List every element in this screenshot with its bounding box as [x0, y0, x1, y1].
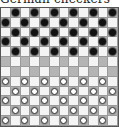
black-piece-icon[interactable]	[90, 48, 97, 55]
dark-square[interactable]	[30, 8, 40, 18]
dark-square[interactable]	[69, 67, 79, 77]
white-piece-icon[interactable]	[2, 117, 9, 124]
dark-square[interactable]	[108, 67, 118, 77]
white-piece-icon[interactable]	[41, 97, 48, 104]
dark-square[interactable]	[21, 77, 31, 87]
white-piece-icon[interactable]	[90, 107, 97, 114]
dark-square[interactable]	[99, 57, 109, 67]
black-piece-icon[interactable]	[12, 29, 19, 36]
white-piece-icon[interactable]	[99, 78, 106, 85]
dark-square[interactable]	[11, 106, 21, 116]
dark-square[interactable]	[89, 47, 99, 57]
white-piece-icon[interactable]	[109, 107, 116, 114]
black-piece-icon[interactable]	[21, 19, 28, 26]
dark-square[interactable]	[99, 96, 109, 106]
dark-square[interactable]	[60, 77, 70, 87]
dark-square[interactable]	[40, 18, 50, 28]
dark-square[interactable]	[69, 47, 79, 57]
dark-square[interactable]	[99, 77, 109, 87]
dark-square[interactable]	[50, 87, 60, 97]
dark-square[interactable]	[89, 87, 99, 97]
black-piece-icon[interactable]	[31, 29, 38, 36]
dark-square[interactable]	[60, 37, 70, 47]
dark-square[interactable]	[79, 37, 89, 47]
black-piece-icon[interactable]	[70, 48, 77, 55]
dark-square[interactable]	[21, 96, 31, 106]
black-piece-icon[interactable]	[41, 19, 48, 26]
black-piece-icon[interactable]	[12, 48, 19, 55]
dark-square[interactable]	[69, 106, 79, 116]
dark-square[interactable]	[30, 47, 40, 57]
dark-square[interactable]	[1, 37, 11, 47]
black-piece-icon[interactable]	[2, 19, 9, 26]
dark-square[interactable]	[89, 8, 99, 18]
dark-square[interactable]	[79, 57, 89, 67]
white-piece-icon[interactable]	[60, 97, 67, 104]
dark-square[interactable]	[99, 116, 109, 126]
dark-square[interactable]	[1, 18, 11, 28]
black-piece-icon[interactable]	[109, 48, 116, 55]
black-piece-icon[interactable]	[90, 9, 97, 16]
black-piece-icon[interactable]	[2, 38, 9, 45]
dark-square[interactable]	[30, 67, 40, 77]
dark-square[interactable]	[11, 87, 21, 97]
dark-square[interactable]	[11, 47, 21, 57]
dark-square[interactable]	[40, 96, 50, 106]
checkers-board[interactable]	[0, 7, 119, 127]
dark-square[interactable]	[79, 116, 89, 126]
dark-square[interactable]	[21, 18, 31, 28]
black-piece-icon[interactable]	[70, 29, 77, 36]
dark-square[interactable]	[1, 77, 11, 87]
dark-square[interactable]	[1, 116, 11, 126]
white-piece-icon[interactable]	[41, 117, 48, 124]
dark-square[interactable]	[50, 47, 60, 57]
black-piece-icon[interactable]	[31, 9, 38, 16]
dark-square[interactable]	[60, 116, 70, 126]
dark-square[interactable]	[79, 18, 89, 28]
white-piece-icon[interactable]	[70, 107, 77, 114]
white-piece-icon[interactable]	[21, 97, 28, 104]
dark-square[interactable]	[40, 57, 50, 67]
black-piece-icon[interactable]	[60, 38, 67, 45]
dark-square[interactable]	[60, 96, 70, 106]
white-piece-icon[interactable]	[12, 88, 19, 95]
dark-square[interactable]	[11, 8, 21, 18]
dark-square[interactable]	[69, 28, 79, 38]
black-piece-icon[interactable]	[21, 38, 28, 45]
black-piece-icon[interactable]	[99, 38, 106, 45]
white-piece-icon[interactable]	[51, 107, 58, 114]
dark-square[interactable]	[108, 87, 118, 97]
dark-square[interactable]	[21, 37, 31, 47]
dark-square[interactable]	[30, 87, 40, 97]
white-piece-icon[interactable]	[51, 88, 58, 95]
white-piece-icon[interactable]	[21, 78, 28, 85]
black-piece-icon[interactable]	[51, 48, 58, 55]
white-piece-icon[interactable]	[60, 78, 67, 85]
white-piece-icon[interactable]	[31, 107, 38, 114]
dark-square[interactable]	[108, 47, 118, 57]
dark-square[interactable]	[50, 28, 60, 38]
white-piece-icon[interactable]	[90, 88, 97, 95]
dark-square[interactable]	[89, 67, 99, 77]
black-piece-icon[interactable]	[12, 9, 19, 16]
black-piece-icon[interactable]	[51, 29, 58, 36]
white-piece-icon[interactable]	[99, 117, 106, 124]
white-piece-icon[interactable]	[2, 97, 9, 104]
white-piece-icon[interactable]	[80, 78, 87, 85]
black-piece-icon[interactable]	[90, 29, 97, 36]
dark-square[interactable]	[79, 77, 89, 87]
white-piece-icon[interactable]	[80, 97, 87, 104]
dark-square[interactable]	[99, 37, 109, 47]
dark-square[interactable]	[89, 28, 99, 38]
dark-square[interactable]	[50, 106, 60, 116]
white-piece-icon[interactable]	[109, 88, 116, 95]
dark-square[interactable]	[108, 8, 118, 18]
dark-square[interactable]	[108, 106, 118, 116]
dark-square[interactable]	[50, 8, 60, 18]
dark-square[interactable]	[99, 18, 109, 28]
black-piece-icon[interactable]	[41, 38, 48, 45]
black-piece-icon[interactable]	[80, 38, 87, 45]
white-piece-icon[interactable]	[31, 88, 38, 95]
white-piece-icon[interactable]	[12, 107, 19, 114]
black-piece-icon[interactable]	[99, 19, 106, 26]
